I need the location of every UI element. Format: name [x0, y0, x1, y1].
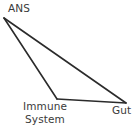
edge-ans-to-gut: [4, 18, 126, 103]
triangle-diagram: ANS ImmuneSystem Gut: [0, 0, 139, 134]
node-label-ans: ANS: [8, 2, 30, 15]
node-label-immune-system-line1: Immune: [23, 100, 67, 112]
node-label-gut: Gut: [112, 104, 131, 117]
node-label-immune-system: ImmuneSystem: [21, 100, 69, 126]
node-label-immune-system-line2: System: [21, 113, 69, 126]
edge-ans-to-immune-system: [4, 18, 57, 99]
